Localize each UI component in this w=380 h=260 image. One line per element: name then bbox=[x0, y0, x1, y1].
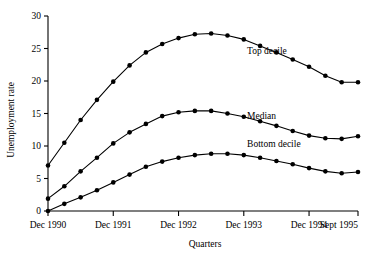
data-point-bottom-decile bbox=[144, 165, 149, 170]
data-point-top-decile bbox=[62, 140, 67, 145]
data-point-top-decile bbox=[78, 118, 83, 123]
data-point-bottom-decile bbox=[62, 202, 67, 207]
data-point-median bbox=[46, 196, 51, 201]
data-point-bottom-decile bbox=[193, 153, 198, 158]
data-point-top-decile bbox=[356, 80, 361, 85]
data-point-bottom-decile bbox=[307, 166, 312, 171]
data-point-median bbox=[95, 155, 100, 160]
x-axis-tick-label: Dec 1990 bbox=[30, 220, 67, 230]
data-point-top-decile bbox=[127, 63, 132, 68]
data-point-bottom-decile bbox=[127, 172, 132, 177]
y-axis-tick-label: 20 bbox=[32, 76, 42, 86]
data-point-median bbox=[127, 130, 132, 135]
data-series-group bbox=[46, 31, 361, 213]
x-axis: Dec 1990Dec 1991Dec 1992Dec 1993Dec 1994… bbox=[30, 211, 359, 230]
data-point-bottom-decile bbox=[176, 155, 181, 160]
data-point-median bbox=[111, 141, 116, 146]
series-line-top-decile bbox=[48, 34, 358, 166]
series-line-bottom-decile bbox=[48, 154, 358, 211]
data-point-top-decile bbox=[46, 163, 51, 168]
data-point-bottom-decile bbox=[225, 152, 230, 157]
series-label-bottom-decile: Bottom decile bbox=[247, 139, 301, 149]
data-point-top-decile bbox=[176, 36, 181, 41]
y-axis-tick-label: 25 bbox=[32, 44, 42, 54]
data-point-bottom-decile bbox=[78, 195, 83, 200]
series-label-top-decile: Top decile bbox=[247, 46, 287, 56]
y-axis-tick-label: 5 bbox=[36, 174, 41, 184]
data-point-median bbox=[339, 137, 344, 142]
data-point-median bbox=[225, 111, 230, 116]
y-axis-tick-label: 15 bbox=[32, 109, 42, 119]
data-point-median bbox=[144, 122, 149, 127]
data-point-median bbox=[62, 184, 67, 189]
data-point-median bbox=[193, 109, 198, 114]
x-axis-title: Quarters bbox=[189, 239, 222, 249]
data-point-median bbox=[290, 129, 295, 134]
chart-container: 051015202530 Dec 1990Dec 1991Dec 1992Dec… bbox=[0, 0, 380, 260]
data-point-bottom-decile bbox=[339, 171, 344, 176]
data-point-top-decile bbox=[95, 98, 100, 103]
x-axis-tick-label: Dec 1993 bbox=[225, 220, 262, 230]
data-point-bottom-decile bbox=[95, 188, 100, 193]
y-axis-tick-label: 0 bbox=[36, 206, 41, 216]
data-point-top-decile bbox=[307, 64, 312, 69]
data-point-top-decile bbox=[241, 37, 246, 42]
data-point-median bbox=[160, 114, 165, 119]
data-point-bottom-decile bbox=[160, 159, 165, 164]
data-point-bottom-decile bbox=[356, 170, 361, 175]
series-label-median: Median bbox=[247, 111, 276, 121]
y-axis: 051015202530 bbox=[32, 11, 49, 216]
data-point-top-decile bbox=[339, 80, 344, 85]
data-point-bottom-decile bbox=[258, 155, 263, 160]
data-point-median bbox=[274, 124, 279, 129]
data-point-bottom-decile bbox=[290, 162, 295, 167]
data-point-median bbox=[307, 133, 312, 138]
data-point-bottom-decile bbox=[209, 152, 214, 157]
x-axis-tick-label: Sept 1995 bbox=[320, 220, 359, 230]
data-point-median bbox=[241, 114, 246, 119]
data-point-top-decile bbox=[209, 31, 214, 36]
y-axis-title: Unemployment rate bbox=[6, 82, 16, 158]
data-point-bottom-decile bbox=[46, 209, 51, 214]
data-point-top-decile bbox=[323, 74, 328, 79]
data-point-top-decile bbox=[144, 50, 149, 55]
data-point-median bbox=[356, 134, 361, 139]
data-point-top-decile bbox=[160, 42, 165, 47]
data-point-top-decile bbox=[290, 57, 295, 62]
data-point-top-decile bbox=[225, 33, 230, 38]
x-axis-tick-label: Dec 1992 bbox=[160, 220, 197, 230]
data-point-median bbox=[176, 110, 181, 115]
y-axis-tick-label: 10 bbox=[32, 141, 42, 151]
data-point-bottom-decile bbox=[111, 180, 116, 185]
data-point-median bbox=[209, 109, 214, 114]
data-point-top-decile bbox=[193, 32, 198, 37]
data-point-bottom-decile bbox=[274, 159, 279, 164]
data-point-top-decile bbox=[111, 79, 116, 84]
x-axis-tick-label: Dec 1991 bbox=[95, 220, 132, 230]
y-axis-tick-label: 30 bbox=[32, 11, 42, 21]
data-point-bottom-decile bbox=[241, 153, 246, 158]
unemployment-rate-line-chart: 051015202530 Dec 1990Dec 1991Dec 1992Dec… bbox=[0, 0, 380, 260]
data-point-bottom-decile bbox=[323, 169, 328, 174]
data-point-median bbox=[323, 136, 328, 141]
data-point-median bbox=[78, 169, 83, 174]
